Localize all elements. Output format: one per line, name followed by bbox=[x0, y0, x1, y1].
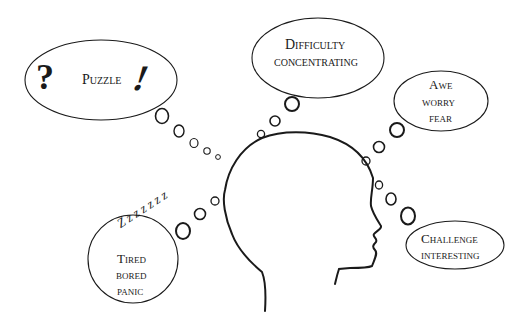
tired-label: Tired bbox=[117, 252, 146, 265]
challenge-dot bbox=[375, 181, 382, 189]
panic-label: panic bbox=[117, 284, 143, 297]
difficulty-label: Difficulty bbox=[285, 38, 345, 52]
tired-dot bbox=[195, 209, 206, 220]
challenge-dot bbox=[401, 208, 415, 225]
worry-label: worry bbox=[422, 95, 455, 108]
challenge-label: Challenge bbox=[421, 232, 478, 245]
tired-dot bbox=[211, 197, 219, 205]
head-profile-outline bbox=[224, 132, 381, 311]
tired-dot bbox=[176, 223, 190, 239]
difficulty-dot bbox=[270, 116, 280, 126]
awe-label: Awe bbox=[429, 78, 452, 91]
difficulty-dot bbox=[285, 97, 299, 111]
challenge-dot bbox=[386, 193, 396, 205]
diagram-canvas bbox=[0, 0, 528, 332]
bored-label: bored bbox=[116, 268, 147, 281]
puzzle-dot bbox=[190, 139, 198, 148]
concentrating-label: concentrating bbox=[274, 55, 358, 69]
puzzle-dot bbox=[204, 148, 210, 154]
interesting-label: interesting bbox=[421, 248, 480, 261]
puzzle-label: Puzzle bbox=[82, 73, 121, 87]
puzzle-dot bbox=[174, 125, 184, 137]
fear-label: fear bbox=[429, 111, 452, 124]
awe-dot bbox=[390, 123, 404, 137]
question-mark-symbol: ? bbox=[36, 59, 54, 95]
puzzle-dot bbox=[216, 155, 221, 160]
puzzle-dot bbox=[156, 109, 169, 124]
awe-dot bbox=[374, 142, 385, 153]
